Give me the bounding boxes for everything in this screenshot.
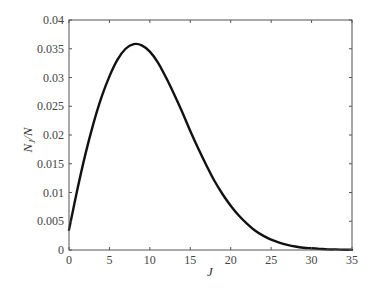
y-axis-label: NJ/N: [20, 126, 37, 153]
x-tick-label: 25: [265, 253, 277, 267]
y-tick-label: 0.025: [37, 99, 64, 113]
y-tick-label: 0.01: [43, 186, 64, 200]
series-line: [69, 44, 352, 250]
x-tick-label: 20: [225, 253, 237, 267]
x-tick-label: 0: [66, 253, 72, 267]
y-tick-label: 0.03: [43, 71, 64, 85]
chart-canvas: 05101520253035 00.0050.010.0150.020.0250…: [0, 0, 376, 295]
distribution-curve: [69, 44, 352, 250]
x-tick-label: 5: [106, 253, 112, 267]
y-axis-ticks: 00.0050.010.0150.020.0250.030.0350.04: [37, 13, 352, 257]
axes-frame: [69, 20, 352, 250]
x-tick-label: 30: [306, 253, 318, 267]
x-axis-ticks: 05101520253035: [66, 20, 358, 267]
y-tick-label: 0.015: [37, 157, 64, 171]
x-tick-label: 15: [184, 253, 196, 267]
y-tick-label: 0.005: [37, 214, 64, 228]
y-tick-label: 0.02: [43, 128, 64, 142]
x-axis-label: J: [207, 264, 214, 279]
y-tick-label: 0.035: [37, 42, 64, 56]
x-tick-label: 10: [144, 253, 156, 267]
x-tick-label: 35: [346, 253, 358, 267]
y-tick-label: 0: [58, 243, 64, 257]
y-tick-label: 0.04: [43, 13, 64, 27]
